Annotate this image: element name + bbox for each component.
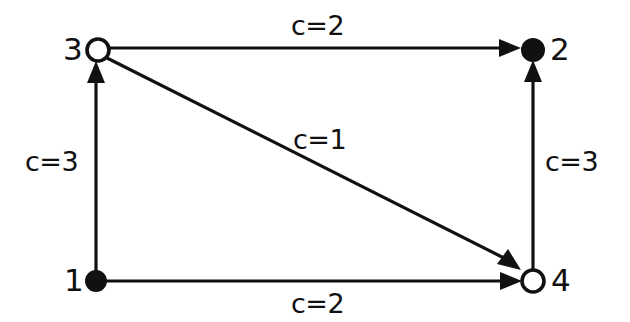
edge-1-to-3-arrowhead bbox=[87, 61, 105, 83]
edge-3-to-4 bbox=[107, 58, 521, 270]
edge-3-to-4-line bbox=[107, 58, 504, 258]
edge-4-to-2-arrowhead bbox=[524, 60, 542, 82]
edge-3-to-4-cost-label: c=1 bbox=[293, 126, 346, 153]
node-4-circle[interactable] bbox=[522, 270, 544, 292]
edge-1-to-3-cost-label: c=3 bbox=[25, 148, 78, 175]
edge-3-to-4-arrowhead bbox=[497, 249, 521, 270]
edge-3-to-2 bbox=[110, 39, 521, 57]
node-4-label: 4 bbox=[551, 265, 571, 296]
edge-3-to-2-cost-label: c=2 bbox=[291, 12, 344, 39]
node-1-label: 1 bbox=[64, 265, 84, 296]
node-3-label: 3 bbox=[63, 34, 83, 65]
edge-1-to-4-cost-label: c=2 bbox=[291, 290, 344, 317]
node-2-label: 2 bbox=[550, 34, 570, 65]
graph-diagram: 3 2 1 4 c=2 c=3 c=1 c=3 c=2 bbox=[0, 0, 630, 322]
graph-canvas-svg bbox=[0, 0, 630, 322]
node-3-circle[interactable] bbox=[87, 39, 109, 61]
edge-1-to-3 bbox=[87, 61, 105, 272]
node-1-circle[interactable] bbox=[86, 271, 106, 291]
edge-1-to-4-arrowhead bbox=[500, 272, 522, 290]
edge-4-to-2-cost-label: c=3 bbox=[545, 148, 598, 175]
node-2-circle[interactable] bbox=[522, 39, 544, 61]
edge-4-to-2 bbox=[524, 60, 542, 272]
edge-3-to-2-arrowhead bbox=[499, 39, 521, 57]
